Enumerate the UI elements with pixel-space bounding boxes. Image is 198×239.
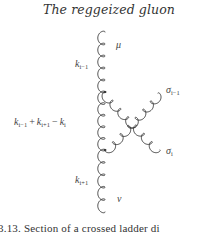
k-sum-t3-sub: i	[64, 121, 66, 128]
figure-caption: 3.13. Section of a crossed ladder di	[0, 222, 160, 234]
gluon-k-next	[98, 149, 105, 213]
label-sigma-prev: σi−1	[166, 85, 180, 97]
vertex-upper	[104, 91, 106, 93]
label-sigma-i: σi	[166, 146, 173, 158]
sigma-prev-sub: i−1	[171, 89, 180, 96]
k-sum-op1: +	[27, 116, 37, 127]
k-sum-t1-sub: i−1	[18, 121, 27, 128]
nu-symbol: ν	[117, 193, 121, 204]
gluon-k-prev	[98, 31, 105, 93]
k-sum-op2: −	[50, 116, 60, 127]
sigma-i-sub: i	[171, 150, 173, 157]
label-k-next: ki+1	[75, 175, 88, 187]
label-k-sum: ki−1+ki+1−ki	[14, 117, 66, 129]
k-next-sub: i+1	[79, 179, 88, 186]
label-nu: ν	[117, 194, 121, 204]
gluon-sigma-prev	[105, 93, 161, 153]
k-prev-sub: i−1	[79, 63, 88, 70]
mu-symbol: μ	[116, 39, 121, 50]
label-mu: μ	[116, 40, 121, 50]
label-k-prev: ki−1	[75, 59, 88, 71]
vertex-lower	[104, 149, 106, 151]
k-sum-t2-sub: i+1	[41, 121, 50, 128]
